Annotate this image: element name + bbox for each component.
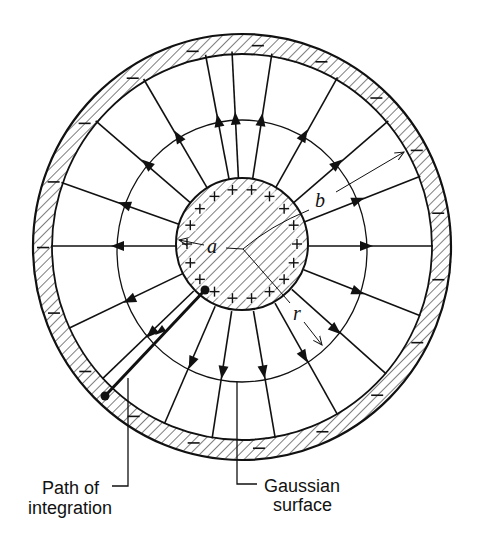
gaussian-leader-line (237, 382, 257, 484)
field-arrow-icon (118, 202, 132, 211)
field-arrow-icon (189, 355, 199, 369)
field-arrow-icon (219, 365, 229, 379)
path-of-label-line2: integration (28, 498, 112, 518)
field-arrow-icon (256, 113, 266, 127)
plus-charge-icon (278, 273, 290, 285)
label-a: a (207, 235, 217, 257)
plus-charge-icon (181, 238, 193, 250)
gaussian-label-line2: surface (273, 495, 332, 515)
path-of-label-line1: Path of (42, 478, 100, 498)
plus-charge-icon (194, 203, 206, 215)
plus-charge-icon (184, 257, 196, 269)
field-arrow-icon (215, 114, 225, 128)
plus-charge-icon (184, 219, 196, 231)
plus-charge-icon (264, 190, 276, 202)
field-arrow-icon (175, 131, 186, 145)
field-arrow-icon (231, 112, 241, 125)
plus-charge-icon (209, 190, 221, 202)
plus-charge-icon (226, 184, 238, 196)
field-arrow-icon (350, 198, 364, 207)
field-arrow-icon (297, 349, 308, 363)
plus-charge-icon (264, 286, 276, 298)
plus-charge-icon (288, 219, 300, 231)
field-arrow-icon (258, 365, 268, 379)
plus-charge-icon (194, 273, 206, 285)
inner-conductor (176, 178, 308, 310)
field-arrow-icon (297, 129, 308, 143)
gaussian-label-line1: Gaussian (264, 476, 340, 496)
plus-charge-icon (291, 238, 303, 250)
plus-charge-icon (246, 184, 258, 196)
plus-charge-icon (226, 292, 238, 304)
plus-charge-icon (209, 286, 221, 298)
coaxial-field-diagram: a b r Path of integration Gaussian surfa… (0, 0, 478, 544)
plus-charge-icon (278, 203, 290, 215)
plus-charge-icon (288, 257, 300, 269)
plus-charge-icon (246, 292, 258, 304)
path-of-integration (101, 286, 210, 401)
label-r: r (293, 302, 301, 324)
label-b: b (315, 189, 325, 211)
